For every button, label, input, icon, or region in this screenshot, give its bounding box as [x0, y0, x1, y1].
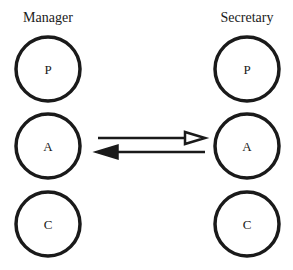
hollow-arrowhead-icon	[185, 132, 205, 144]
node-label: A	[43, 139, 53, 154]
filled-arrowhead-icon	[95, 145, 118, 159]
manager-title: Manager	[23, 10, 73, 25]
manager-node-c: C	[16, 192, 80, 256]
arrow-secretary-to-manager	[95, 145, 205, 159]
node-label: C	[44, 217, 53, 232]
node-label: A	[242, 139, 252, 154]
diagram-canvas: Manager Secretary P A C P A C	[0, 0, 293, 270]
secretary-node-p: P	[215, 37, 279, 101]
node-label: P	[44, 62, 51, 77]
arrow-manager-to-secretary	[98, 132, 205, 144]
secretary-node-a: A	[215, 114, 279, 178]
secretary-title: Secretary	[221, 10, 274, 25]
manager-node-a: A	[16, 114, 80, 178]
node-label: P	[243, 62, 250, 77]
manager-node-p: P	[16, 37, 80, 101]
node-label: C	[243, 217, 252, 232]
secretary-node-c: C	[215, 192, 279, 256]
